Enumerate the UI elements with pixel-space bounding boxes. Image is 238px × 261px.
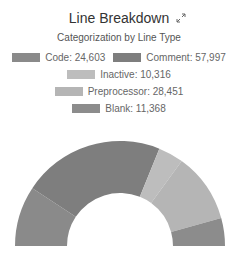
semi-donut-chart [0,0,238,261]
